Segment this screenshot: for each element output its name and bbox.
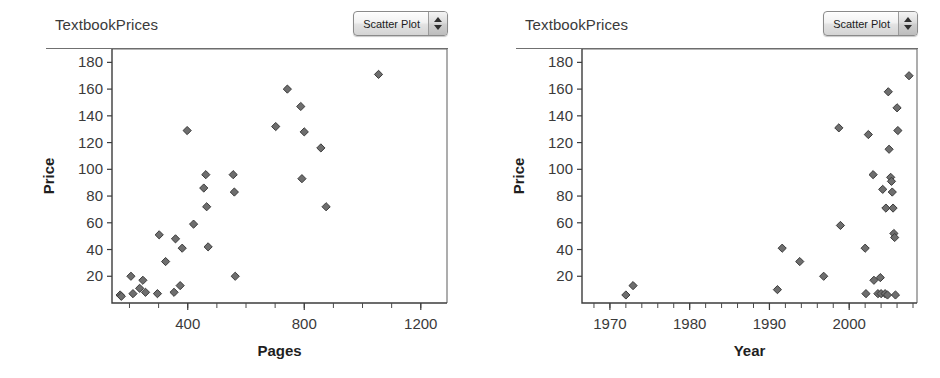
data-point: [127, 272, 135, 280]
data-point: [176, 282, 184, 290]
data-point: [141, 288, 149, 296]
plot-axes: [112, 49, 447, 303]
data-point: [905, 72, 913, 80]
data-point: [889, 204, 897, 212]
data-point: [322, 203, 330, 211]
data-point: [153, 290, 161, 298]
data-point: [836, 221, 844, 229]
data-point: [883, 291, 891, 299]
data-point: [117, 292, 125, 300]
data-point: [864, 130, 872, 138]
data-point: [796, 257, 804, 265]
data-point: [283, 85, 291, 93]
page-title: TextbookPrices: [55, 16, 158, 33]
y-tick-label: 100: [548, 160, 573, 177]
plot-frame: [112, 49, 447, 303]
y-tick-label: 20: [86, 267, 103, 284]
data-point: [894, 126, 902, 134]
data-point: [622, 291, 630, 299]
y-tick-label: 40: [556, 241, 573, 258]
data-point: [884, 88, 892, 96]
plot-type-popup-label: Scatter Plot: [824, 12, 898, 35]
data-point: [888, 188, 896, 196]
data-point: [881, 290, 889, 298]
y-tick-label: 80: [556, 187, 573, 204]
x-tick-label: 1970: [593, 315, 626, 332]
x-axis-title: Year: [734, 342, 766, 359]
plot-type-stepper[interactable]: [898, 12, 917, 35]
triangle-up-icon[interactable]: [434, 17, 442, 22]
data-point: [204, 243, 212, 251]
data-point: [272, 122, 280, 130]
data-point: [178, 244, 186, 252]
data-point: [891, 233, 899, 241]
data-point: [317, 144, 325, 152]
header-divider: [46, 48, 448, 49]
y-tick-label: 120: [548, 134, 573, 151]
data-point-group: [116, 70, 383, 300]
x-tick-label: 1200: [404, 315, 437, 332]
data-point: [229, 171, 237, 179]
data-point: [874, 290, 882, 298]
data-point: [230, 188, 238, 196]
y-tick-label: 160: [78, 80, 103, 97]
x-tick-label: 1980: [673, 315, 706, 332]
data-point: [139, 276, 147, 284]
y-axis-title: Price: [40, 158, 57, 195]
x-tick-label: 2000: [833, 315, 866, 332]
window-header-right: TextbookPrices Scatter Plot: [470, 0, 940, 50]
triangle-down-icon[interactable]: [434, 25, 442, 30]
window-header-left: TextbookPrices Scatter Plot: [0, 0, 470, 50]
y-tick-label: 180: [78, 53, 103, 70]
data-point-group: [622, 72, 913, 299]
x-tick-label: 1990: [753, 315, 786, 332]
y-tick-label: 160: [548, 80, 573, 97]
data-point: [200, 184, 208, 192]
data-point: [887, 173, 895, 181]
data-point: [129, 290, 137, 298]
data-point: [136, 284, 144, 292]
data-point: [876, 274, 884, 282]
x-axis-title: Pages: [257, 342, 301, 359]
triangle-up-icon[interactable]: [904, 17, 912, 22]
data-point: [861, 244, 869, 252]
data-point: [877, 290, 885, 298]
data-point: [170, 288, 178, 296]
scatter-chart-pages-svg: 204060801001201401601804008001200PagesPr…: [0, 0, 470, 378]
data-point: [171, 235, 179, 243]
plot-frame: [582, 49, 917, 303]
y-tick-label: 180: [548, 53, 573, 70]
data-point: [203, 203, 211, 211]
data-point: [820, 272, 828, 280]
data-point: [202, 171, 210, 179]
data-point: [887, 177, 895, 185]
scatter-chart-year: 204060801001201401601801970198019902000Y…: [470, 0, 940, 378]
data-point: [162, 257, 170, 265]
data-point: [835, 124, 843, 132]
data-point: [778, 244, 786, 252]
y-tick-label: 40: [86, 241, 103, 258]
data-point: [879, 185, 887, 193]
data-point: [862, 290, 870, 298]
plot-window-year: TextbookPrices Scatter Plot 204060801001…: [470, 0, 940, 378]
plot-type-popup-button[interactable]: Scatter Plot: [353, 11, 448, 36]
data-point: [374, 70, 382, 78]
data-point: [231, 272, 239, 280]
y-axis-title: Price: [510, 158, 527, 195]
y-tick-label: 120: [78, 134, 103, 151]
data-point: [629, 282, 637, 290]
data-point: [870, 276, 878, 284]
data-point: [890, 229, 898, 237]
scatter-chart-pages: 204060801001201401601804008001200PagesPr…: [0, 0, 470, 378]
plot-type-popup-button[interactable]: Scatter Plot: [823, 11, 918, 36]
plot-axes: [582, 49, 917, 303]
triangle-down-icon[interactable]: [904, 25, 912, 30]
y-tick-label: 20: [556, 267, 573, 284]
y-tick-label: 140: [548, 107, 573, 124]
plot-window-pages: TextbookPrices Scatter Plot 204060801001…: [0, 0, 470, 378]
plot-type-stepper[interactable]: [428, 12, 447, 35]
y-tick-label: 60: [556, 214, 573, 231]
plot-type-popup-label: Scatter Plot: [354, 12, 428, 35]
data-point: [893, 104, 901, 112]
scatter-chart-year-svg: 204060801001201401601801970198019902000Y…: [470, 0, 940, 378]
